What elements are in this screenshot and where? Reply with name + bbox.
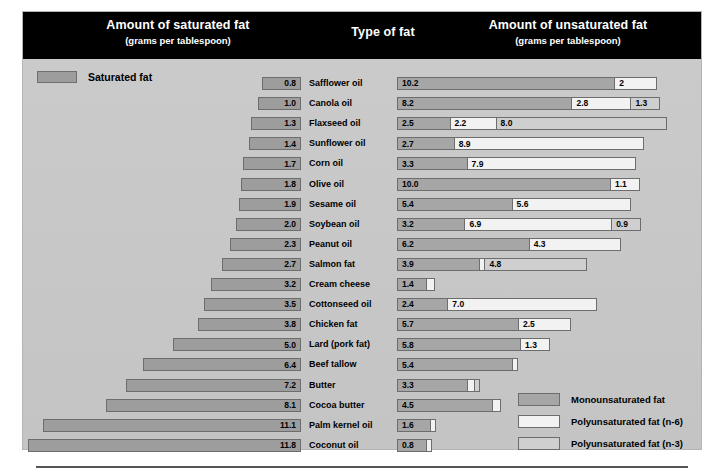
unsaturated-segment-mono: 10.0	[397, 178, 611, 191]
unsaturated-segment-mono: 5.4	[397, 358, 513, 371]
saturated-value: 2.7	[284, 260, 300, 269]
saturated-bar: 1.3	[251, 117, 301, 130]
segment-value: 0.8	[398, 441, 414, 450]
saturated-bar-container: 8.1	[23, 399, 301, 412]
unsaturated-segment-n3: 0.9	[611, 218, 641, 231]
saturated-bar-container: 11.8	[23, 439, 301, 452]
unsaturated-segment-n6: 8.9	[454, 137, 644, 150]
unsaturated-segment-n6	[492, 399, 501, 412]
fat-type-label: Chicken fat	[309, 318, 405, 331]
unsaturated-segment-mono: 2.7	[397, 137, 455, 150]
unsaturated-segment-n6	[430, 419, 436, 432]
unsaturated-segment-mono: 6.2	[397, 238, 530, 251]
unsaturated-segment-n6: 5.6	[512, 198, 632, 211]
fat-type-label: Sesame oil	[309, 198, 405, 211]
saturated-bar: 3.8	[198, 318, 301, 331]
fat-type-label: Corn oil	[309, 157, 405, 170]
unsaturated-segment-n6: 6.9	[464, 218, 612, 231]
unsaturated-segment-mono: 4.5	[397, 399, 493, 412]
bottom-divider	[36, 466, 688, 468]
fat-type-label: Peanut oil	[309, 238, 405, 251]
saturated-value: 6.4	[284, 361, 300, 370]
saturated-bar-container: 5.0	[23, 338, 301, 351]
saturated-bar: 1.7	[243, 157, 301, 170]
segment-value: 5.4	[398, 200, 414, 209]
segment-value: 8.0	[497, 119, 513, 128]
saturated-bar-container: 1.9	[23, 198, 301, 211]
segment-value: 3.3	[398, 160, 414, 169]
unsaturated-bar-container: 10.01.1	[397, 178, 639, 191]
segment-value: 2.2	[451, 119, 467, 128]
saturated-bar: 11.1	[43, 419, 301, 432]
saturated-value: 1.8	[284, 180, 300, 189]
fat-type-label: Palm kernel oil	[309, 419, 405, 432]
legend-label: Polyunsaturated fat (n-6)	[571, 416, 683, 427]
fat-type-label: Sunflower oil	[309, 137, 405, 150]
unsaturated-bar-container: 3.26.90.9	[397, 218, 640, 231]
segment-value: 4.3	[530, 240, 546, 249]
fat-type-label: Coconut oil	[309, 439, 405, 452]
segment-value: 6.9	[465, 220, 481, 229]
segment-value: 2.4	[398, 300, 414, 309]
unsaturated-segment-n3: 8.0	[496, 117, 667, 130]
segment-value: 6.2	[398, 240, 414, 249]
table-row: 5.0Lard (pork fat)5.81.3	[23, 335, 701, 355]
fat-type-label: Flaxseed oil	[309, 117, 405, 130]
saturated-bar-container: 1.0	[23, 97, 301, 110]
fat-type-label: Safflower oil	[309, 77, 405, 90]
fat-type-label: Salmon fat	[309, 258, 405, 271]
saturated-bar-container: 2.3	[23, 238, 301, 251]
fat-type-label: Cocoa butter	[309, 399, 405, 412]
saturated-bar: 1.9	[239, 198, 301, 211]
fat-type-label: Olive oil	[309, 178, 405, 191]
saturated-bar-container: 3.8	[23, 318, 301, 331]
unsaturated-bar-container: 2.47.0	[397, 298, 596, 311]
fat-type-label: Lard (pork fat)	[309, 338, 405, 351]
unsaturated-segment-n6: 2.5	[518, 318, 572, 331]
unsaturated-segment-n3: 1.3	[630, 97, 660, 110]
table-row: 2.3Peanut oil6.24.3	[23, 235, 701, 255]
chart-page: Amount of saturated fat (grams per table…	[0, 0, 724, 475]
unsaturated-segment-mono: 10.2	[397, 77, 615, 90]
unsaturated-segment-n6: 4.3	[529, 238, 621, 251]
unsaturated-segment-n6: 1.3	[520, 338, 550, 351]
table-row: 2.0Soybean oil3.26.90.9	[23, 215, 701, 235]
unsaturated-segment-mono: 3.2	[397, 218, 465, 231]
table-row: 1.3Flaxseed oil2.52.28.0	[23, 114, 701, 134]
segment-value: 2.5	[519, 320, 535, 329]
chart-rows: 0.8Safflower oil10.221.0Canola oil8.22.8…	[23, 12, 701, 449]
table-row: 1.7Corn oil3.37.9	[23, 154, 701, 174]
unsaturated-segment-mono: 1.6	[397, 419, 431, 432]
unsaturated-bar-container: 5.45.6	[397, 198, 630, 211]
table-row: 2.7Salmon fat3.94.8	[23, 255, 701, 275]
unsaturated-segment-mono: 3.3	[397, 157, 468, 170]
saturated-bar: 0.8	[262, 77, 301, 90]
saturated-bar-container: 1.4	[23, 137, 301, 150]
saturated-value: 1.7	[284, 160, 300, 169]
saturated-bar-container: 1.3	[23, 117, 301, 130]
segment-value: 10.0	[398, 180, 419, 189]
saturated-bar: 2.7	[222, 258, 302, 271]
segment-value: 2	[615, 79, 624, 88]
saturated-bar-container: 2.7	[23, 258, 301, 271]
segment-value: 10.2	[398, 79, 419, 88]
unsaturated-bar-container: 5.81.3	[397, 338, 549, 351]
saturated-value: 3.5	[284, 300, 300, 309]
legend-item: Monounsaturated fat	[518, 390, 698, 409]
table-row: 1.9Sesame oil5.45.6	[23, 195, 701, 215]
segment-value: 5.7	[398, 320, 414, 329]
fat-type-legend: Monounsaturated fatPolyunsaturated fat (…	[518, 390, 698, 456]
saturated-bar-container: 7.2	[23, 379, 301, 392]
saturated-bar-container: 1.8	[23, 178, 301, 191]
segment-value: 7.0	[448, 300, 464, 309]
saturated-bar: 1.4	[249, 137, 301, 150]
segment-value: 2.7	[398, 140, 414, 149]
unsaturated-bar-container: 3.3	[397, 379, 479, 392]
saturated-value: 3.2	[284, 280, 300, 289]
unsaturated-bar-container: 4.5	[397, 399, 500, 412]
saturated-value: 1.3	[284, 119, 300, 128]
saturated-bar-container: 3.2	[23, 278, 301, 291]
unsaturated-segment-mono: 5.4	[397, 198, 513, 211]
segment-value: 8.9	[455, 140, 471, 149]
saturated-value: 1.4	[284, 140, 300, 149]
